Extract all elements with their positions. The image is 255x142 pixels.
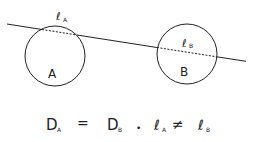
circle-b-label: B (180, 65, 188, 79)
eq-d-b: D (107, 116, 119, 134)
eq-d-b-sub: B (118, 126, 122, 133)
eq-equals: = (77, 115, 89, 131)
equation: D A = D B • ℓ A ≠ ℓ B (46, 115, 210, 134)
circle-a-label: A (48, 67, 57, 81)
eq-l-b-sub: B (206, 126, 210, 133)
eq-l-a: ℓ (153, 117, 160, 133)
eq-l-b: ℓ (197, 117, 204, 133)
eq-d-a-sub: A (57, 126, 62, 133)
eq-d-a: D (46, 116, 58, 134)
secant-line-middle (77, 35, 157, 48)
secant-line-left (7, 24, 42, 30)
eq-l-a-sub: A (162, 126, 167, 133)
secant-line-right (216, 57, 246, 62)
chord-a-label: ℓ (55, 10, 61, 23)
chord-diagram: ℓ A A ℓ B B D A = D B • ℓ A ≠ ℓ B (0, 0, 255, 142)
chord-b-subscript: B (189, 42, 193, 49)
chord-a-subscript: A (63, 16, 68, 23)
eq-separator: • (136, 123, 141, 133)
eq-not-equal: ≠ (172, 116, 184, 132)
chord-a (42, 30, 77, 36)
chord-b-label: ℓ (181, 37, 187, 50)
